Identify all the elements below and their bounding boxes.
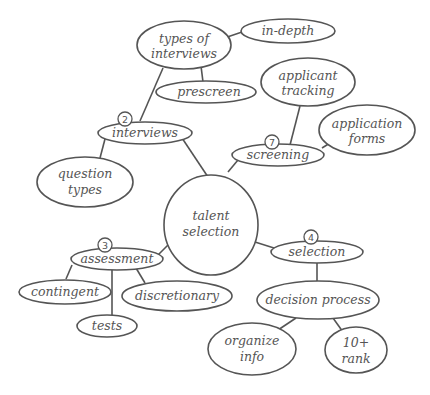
badge-assessment: 3 xyxy=(98,238,112,252)
node-label: types of xyxy=(159,31,211,46)
node-label: screening xyxy=(247,147,309,162)
badge-number: 4 xyxy=(308,232,314,243)
node-label: types xyxy=(68,182,102,197)
node-label: rank xyxy=(341,351,370,366)
node-label: 10+ xyxy=(343,335,369,350)
edge-assessment-contingent xyxy=(66,265,72,279)
node-label: in-depth xyxy=(262,23,315,38)
node-label: info xyxy=(240,349,264,364)
node-label: interviews xyxy=(112,125,178,140)
node-label: tracking xyxy=(281,83,334,98)
badge-selection: 4 xyxy=(304,230,318,244)
node-interviews[interactable]: interviews xyxy=(98,122,192,144)
node-label: discretionary xyxy=(135,288,220,303)
badge-number: 2 xyxy=(122,114,128,125)
node-label: tests xyxy=(92,318,122,333)
node-10-rank[interactable]: 10+ rank xyxy=(325,327,387,373)
node-label: selection xyxy=(289,244,346,259)
edge-screening-tracking xyxy=(290,106,300,145)
node-decision-process[interactable]: decision process xyxy=(257,281,379,319)
node-label: selection xyxy=(183,224,240,239)
edge-interviews-center xyxy=(182,138,210,180)
node-contingent[interactable]: contingent xyxy=(19,280,111,304)
node-types-of-interviews[interactable]: types of interviews xyxy=(137,21,231,69)
node-discretionary[interactable]: discretionary xyxy=(122,281,232,311)
mind-map-canvas: talent selection types of interviews in-… xyxy=(0,0,430,395)
edge-types-prescreen xyxy=(201,66,203,82)
node-question-types[interactable]: question types xyxy=(37,157,133,207)
node-label: prescreen xyxy=(177,84,241,99)
node-prescreen[interactable]: prescreen xyxy=(156,81,256,103)
node-assessment[interactable]: assessment xyxy=(71,248,163,270)
edge-decision-organize xyxy=(278,318,296,330)
node-applicant-tracking[interactable]: applicant tracking xyxy=(261,58,355,106)
node-label: forms xyxy=(348,131,385,146)
node-label: contingent xyxy=(31,284,100,299)
node-label: organize xyxy=(225,333,280,348)
node-in-depth[interactable]: in-depth xyxy=(241,19,335,43)
badge-number: 3 xyxy=(102,240,108,251)
badge-number: 7 xyxy=(269,137,275,148)
node-label: application xyxy=(332,116,403,131)
node-label: talent xyxy=(193,208,231,223)
node-label: assessment xyxy=(81,251,155,266)
node-selection[interactable]: selection xyxy=(271,241,363,263)
node-screening[interactable]: screening xyxy=(232,144,324,166)
badge-screening: 7 xyxy=(265,135,279,149)
node-label: applicant xyxy=(279,68,339,83)
node-organize-info[interactable]: organize info xyxy=(208,323,296,375)
edge-assessment-discretionary xyxy=(136,268,145,283)
node-label: interviews xyxy=(151,46,217,61)
node-talent-selection[interactable]: talent selection xyxy=(164,175,258,275)
edge-center-selection xyxy=(255,242,274,248)
edge-screening-center xyxy=(228,160,238,172)
badge-interviews: 2 xyxy=(118,112,132,126)
node-application-forms[interactable]: application forms xyxy=(319,105,415,155)
node-label: question xyxy=(58,166,112,181)
node-label: decision process xyxy=(265,292,370,307)
edge-interviews-question xyxy=(100,139,105,158)
node-tests[interactable]: tests xyxy=(77,315,137,337)
